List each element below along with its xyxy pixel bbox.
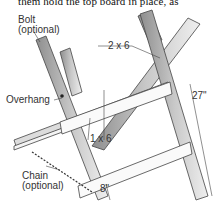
bolt-optional-note: (optional): [18, 24, 60, 35]
bolt: [60, 94, 64, 98]
overhang-label: Overhang: [6, 94, 50, 105]
chain-optional-note: (optional): [22, 180, 64, 191]
brace-size-label: 1 x 6: [90, 133, 112, 144]
top-board-size-label: 2 x 6: [108, 40, 130, 51]
gap-dimension-label: 8": [100, 183, 109, 194]
height-dimension-label: 27": [192, 90, 207, 101]
